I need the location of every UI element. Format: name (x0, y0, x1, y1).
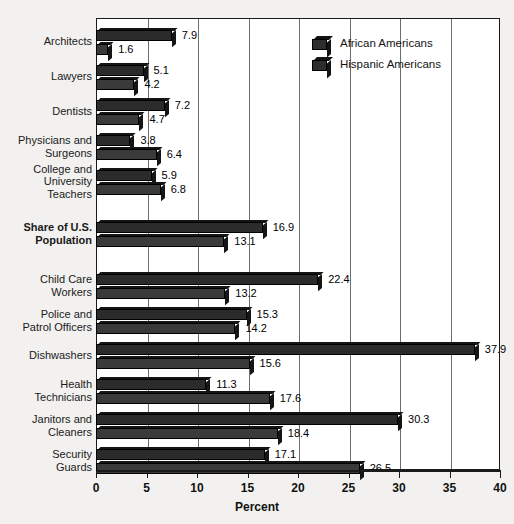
bar (96, 321, 239, 334)
bar (96, 426, 282, 439)
bar-row: 13.1 (96, 234, 500, 247)
bar-row: 16.9 (96, 220, 500, 233)
x-tick-label: 25 (342, 481, 355, 495)
bar-value-label: 13.1 (234, 235, 255, 248)
bar-group: 3.86.4 (96, 133, 500, 160)
bar-value-label: 17.6 (280, 392, 301, 405)
bar-value-label: 7.2 (175, 99, 190, 112)
bar-group: 15.314.2 (96, 307, 500, 334)
x-tick (248, 470, 249, 478)
bar (96, 77, 138, 90)
bar (96, 391, 274, 404)
bar (96, 342, 479, 355)
bar (96, 182, 165, 195)
x-tick-label: 30 (392, 481, 405, 495)
bar-group: 37.915.6 (96, 342, 500, 369)
bar-group: 11.317.6 (96, 377, 500, 404)
bar (96, 42, 112, 55)
bar (96, 356, 254, 369)
x-tick (147, 470, 148, 478)
bars-container: 7.91.65.14.27.24.73.86.45.96.816.913.122… (96, 18, 500, 470)
bar-group: 16.913.1 (96, 220, 500, 247)
bar-value-label: 14.2 (245, 322, 266, 335)
bar-value-label: 7.9 (182, 29, 197, 42)
bar-row: 15.6 (96, 356, 500, 369)
bar (96, 412, 402, 425)
x-tick-label: 10 (190, 481, 203, 495)
x-tick-label: 20 (291, 481, 304, 495)
bar (96, 147, 161, 160)
category-axis-labels: ArchitectsLawyersDentistsPhysicians andS… (0, 18, 92, 470)
legend-swatch-hispanic-americans (312, 57, 331, 71)
bar-row: 3.8 (96, 133, 500, 146)
bar-value-label: 4.2 (144, 78, 159, 91)
category-label: Dentists (0, 105, 92, 118)
legend: African Americans Hispanic Americans (312, 32, 441, 74)
bar-row: 17.6 (96, 391, 500, 404)
category-label: Child CareWorkers (0, 273, 92, 298)
bar-group: 30.318.4 (96, 412, 500, 439)
bar (96, 234, 228, 247)
bar-group: 22.413.2 (96, 272, 500, 299)
x-tick (399, 470, 400, 478)
bar-row: 4.7 (96, 112, 500, 125)
legend-label-hispanic-americans: Hispanic Americans (340, 58, 441, 70)
bar-row: 7.2 (96, 98, 500, 111)
bar (96, 168, 156, 181)
bar-value-label: 22.4 (328, 273, 349, 286)
bar-value-label: 17.1 (275, 448, 296, 461)
legend-item-hispanic-americans: Hispanic Americans (312, 53, 441, 74)
category-label: Lawyers (0, 70, 92, 83)
bar (96, 377, 210, 390)
bar-row: 18.4 (96, 426, 500, 439)
bar (96, 447, 269, 460)
bar-value-label: 6.8 (171, 183, 186, 196)
bar (96, 461, 364, 474)
bar-chart: ArchitectsLawyersDentistsPhysicians andS… (0, 0, 514, 524)
bar-value-label: 26.5 (370, 462, 391, 475)
category-label: Police andPatrol Officers (0, 308, 92, 333)
bar (96, 28, 176, 41)
legend-item-african-americans: African Americans (312, 32, 441, 53)
bar (96, 63, 148, 76)
x-tick-label: 40 (493, 481, 506, 495)
bar-row: 6.8 (96, 182, 500, 195)
bar-row: 37.9 (96, 342, 500, 355)
bar-value-label: 13.2 (235, 287, 256, 300)
bar-row: 6.4 (96, 147, 500, 160)
legend-label-african-americans: African Americans (340, 37, 433, 49)
bar-row: 17.1 (96, 447, 500, 460)
bar-row: 15.3 (96, 307, 500, 320)
x-tick-label: 35 (443, 481, 456, 495)
category-label: Dishwashers (0, 349, 92, 362)
bar-value-label: 15.3 (257, 308, 278, 321)
x-tick (500, 470, 501, 478)
category-label: Share of U.S.Population (0, 221, 92, 246)
bar-row: 14.2 (96, 321, 500, 334)
bar-row: 4.2 (96, 77, 500, 90)
x-tick (96, 470, 97, 478)
category-label: HealthTechnicians (0, 378, 92, 403)
bar-value-label: 30.3 (408, 413, 429, 426)
bar-value-label: 5.9 (162, 169, 177, 182)
bar (96, 307, 251, 320)
x-tick-label: 5 (143, 481, 150, 495)
category-label: Janitors andCleaners (0, 413, 92, 438)
category-label: College andUniversityTeachers (0, 163, 92, 201)
bar-row: 22.4 (96, 272, 500, 285)
category-label: SecurityGuards (0, 448, 92, 473)
bar-group: 5.96.8 (96, 168, 500, 195)
bar (96, 98, 169, 111)
bar-row: 11.3 (96, 377, 500, 390)
bar (96, 133, 134, 146)
bar-value-label: 15.6 (260, 357, 281, 370)
category-label: Physicians andSurgeons (0, 134, 92, 159)
bar-value-label: 16.9 (273, 221, 294, 234)
x-tick (349, 470, 350, 478)
bar (96, 272, 322, 285)
bar-value-label: 4.7 (149, 113, 164, 126)
x-tick (450, 470, 451, 478)
bar-value-label: 5.1 (154, 64, 169, 77)
x-tick (197, 470, 198, 478)
legend-swatch-african-americans (312, 36, 331, 50)
